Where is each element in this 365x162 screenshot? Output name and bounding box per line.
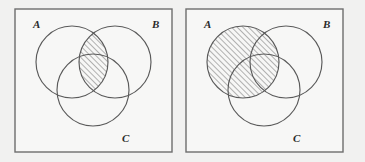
left-panel: A B C	[15, 9, 172, 152]
right-label-b: B	[322, 18, 330, 30]
left-label-a: A	[32, 18, 40, 30]
venn-diagram-figure: A B C A B C	[0, 0, 365, 162]
right-label-c: C	[293, 132, 301, 144]
right-panel: A B C	[186, 9, 343, 152]
left-label-b: B	[151, 18, 159, 30]
left-label-c: C	[122, 132, 130, 144]
right-label-a: A	[203, 18, 211, 30]
